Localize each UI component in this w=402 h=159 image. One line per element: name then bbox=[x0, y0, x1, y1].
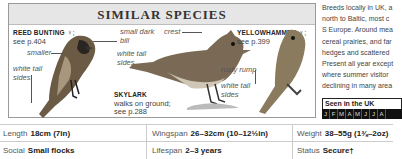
stat-weight: Weight38–55g (1⅜–2oz) bbox=[297, 125, 388, 142]
description-line: Breeds locally in UK, a bbox=[322, 2, 402, 13]
seen-in-uk-title: Seen in the UK bbox=[322, 98, 402, 109]
divider bbox=[146, 125, 147, 142]
month-jun: J bbox=[362, 109, 370, 119]
annotation-rusty-rump: rusty rump bbox=[221, 66, 256, 75]
description-line: Present all year except bbox=[322, 58, 402, 69]
skylark-caption: SKYLARK walks on ground; see p.288 bbox=[114, 91, 171, 117]
month-may: M bbox=[354, 109, 362, 119]
description-line: declining in many area bbox=[322, 80, 402, 91]
stat-length: Length18cm (7in) bbox=[3, 125, 70, 142]
leader-line bbox=[93, 41, 117, 42]
month-jul: J bbox=[370, 109, 378, 119]
similar-species-panel: SIMILAR SPECIES REED BUNTING ♀; see p.40… bbox=[8, 3, 316, 118]
stat-lifespan: Lifespan2–3 years bbox=[152, 142, 222, 159]
description-line: cereal prairies, and far bbox=[322, 36, 402, 47]
annotation-white-tail-sides-3: white tailsides bbox=[221, 82, 250, 99]
leader-line bbox=[31, 75, 32, 103]
description-line: hedges and scattered bbox=[322, 47, 402, 58]
divider bbox=[292, 125, 293, 142]
reed-bunting-caption: REED BUNTING ♀; see p.404 bbox=[13, 29, 75, 46]
stat-status: StatusSecure† bbox=[297, 142, 354, 159]
month-feb: F bbox=[330, 109, 338, 119]
annotation-white-tail-sides-1: white tailsides bbox=[13, 65, 42, 82]
annotation-crest: crest bbox=[164, 28, 180, 37]
stat-social: SocialSmall flocks bbox=[3, 142, 74, 159]
description-line: S Europe. Around mea bbox=[322, 24, 402, 35]
species-description: Breeds locally in UK, a north to Baltic,… bbox=[322, 2, 402, 92]
divider bbox=[146, 142, 147, 159]
stats-table: Length18cm (7in) Wingspan26–32cm (10–12½… bbox=[0, 124, 393, 158]
annotation-smaller: smaller bbox=[27, 49, 51, 58]
description-line: where summer visitor bbox=[322, 69, 402, 80]
panel-title: SIMILAR SPECIES bbox=[9, 4, 315, 25]
month-strip: J F M A M J J A bbox=[322, 109, 402, 119]
stat-wingspan: Wingspan26–32cm (10–12½in) bbox=[152, 125, 268, 142]
leader-line bbox=[182, 32, 202, 33]
month-aug: A bbox=[378, 109, 386, 119]
seen-in-uk-calendar: Seen in the UK J F M A M J J A bbox=[322, 98, 402, 120]
stats-row: Length18cm (7in) Wingspan26–32cm (10–12½… bbox=[0, 124, 393, 142]
month-mar: M bbox=[338, 109, 346, 119]
yellowhammer-illustration bbox=[249, 24, 317, 119]
leader-line bbox=[51, 53, 63, 54]
leader-line bbox=[255, 70, 256, 84]
month-jan: J bbox=[322, 109, 330, 119]
stats-row: SocialSmall flocks Lifespan2–3 years Sta… bbox=[0, 141, 393, 159]
description-line: north to Baltic, most c bbox=[322, 13, 402, 24]
month-apr: A bbox=[346, 109, 354, 119]
divider bbox=[292, 142, 293, 159]
